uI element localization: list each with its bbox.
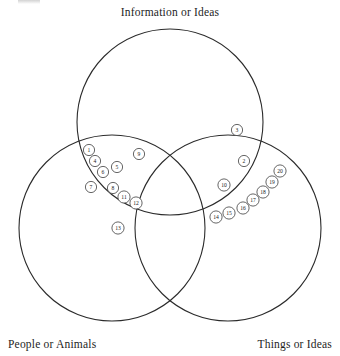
marker-15: 15: [223, 207, 235, 219]
marker-label-2: 2: [243, 158, 246, 164]
marker-label-5: 5: [116, 164, 119, 170]
marker-9: 9: [133, 148, 144, 159]
marker-label-16: 16: [240, 205, 246, 211]
set-label-group: Information or IdeasPeople or AnimalsThi…: [8, 6, 332, 351]
marker-label-12: 12: [133, 200, 139, 206]
marker-2: 2: [238, 155, 249, 166]
marker-label-9: 9: [138, 151, 141, 157]
marker-4: 4: [89, 155, 100, 166]
label-information: Information or Ideas: [121, 6, 220, 18]
marker-1: 1: [83, 144, 94, 155]
marker-10: 10: [218, 179, 230, 191]
marker-19: 19: [266, 176, 278, 188]
marker-group: 1456789111213321020191817161514: [83, 124, 286, 234]
marker-label-3: 3: [236, 127, 239, 133]
marker-17: 17: [247, 194, 259, 206]
set-circle-things: [135, 135, 321, 321]
label-people: People or Animals: [8, 338, 97, 351]
venn-diagram-svg: Information or IdeasPeople or AnimalsThi…: [0, 0, 340, 356]
marker-20: 20: [274, 165, 286, 177]
marker-label-10: 10: [221, 182, 227, 188]
set-circle-information: [77, 29, 263, 215]
marker-label-20: 20: [277, 168, 283, 174]
marker-label-4: 4: [94, 158, 97, 164]
marker-label-11: 11: [121, 194, 127, 200]
marker-label-8: 8: [112, 185, 115, 191]
marker-label-1: 1: [88, 147, 91, 153]
marker-label-19: 19: [269, 179, 275, 185]
marker-label-15: 15: [226, 210, 232, 216]
marker-label-6: 6: [102, 169, 105, 175]
marker-label-13: 13: [115, 225, 121, 231]
venn-diagram-canvas: Information or IdeasPeople or AnimalsThi…: [0, 0, 340, 356]
marker-label-17: 17: [250, 197, 256, 203]
marker-label-14: 14: [213, 214, 219, 220]
marker-3: 3: [231, 124, 242, 135]
marker-6: 6: [97, 166, 108, 177]
marker-label-7: 7: [90, 184, 93, 190]
marker-8: 8: [107, 182, 118, 193]
marker-14: 14: [210, 211, 222, 223]
marker-13: 13: [112, 222, 124, 234]
marker-12: 12: [130, 197, 142, 209]
marker-11: 11: [118, 191, 130, 203]
marker-label-18: 18: [260, 189, 266, 195]
marker-18: 18: [257, 186, 269, 198]
marker-7: 7: [85, 181, 96, 192]
marker-5: 5: [111, 161, 122, 172]
marker-16: 16: [237, 202, 249, 214]
label-things: Things or Ideas: [257, 338, 332, 351]
